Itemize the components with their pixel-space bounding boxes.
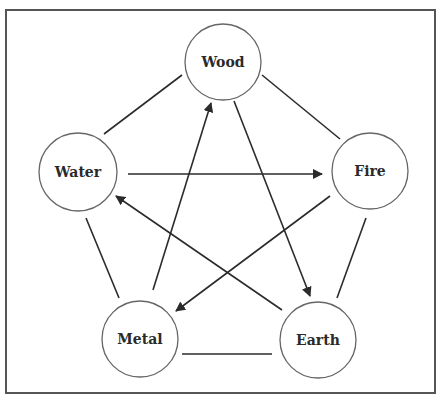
edge-water-wood xyxy=(104,75,182,134)
node-wood: Wood xyxy=(185,24,261,100)
node-label: Metal xyxy=(117,331,162,347)
node-metal: Metal xyxy=(102,301,178,377)
arrow-wood-to-earth xyxy=(234,101,310,296)
edge-wood-fire xyxy=(262,75,340,139)
arrow-metal-to-wood xyxy=(153,103,211,290)
node-label: Water xyxy=(54,164,102,180)
edge-water-metal xyxy=(86,218,119,298)
node-fire: Fire xyxy=(332,133,408,209)
controlling-cycle-arrows xyxy=(116,101,330,311)
five-elements-diagram: WoodWaterFireMetalEarth xyxy=(0,0,447,401)
node-label: Wood xyxy=(200,54,244,70)
edge-fire-earth xyxy=(337,218,366,298)
node-earth: Earth xyxy=(280,302,356,378)
element-nodes: WoodWaterFireMetalEarth xyxy=(39,24,408,378)
node-label: Fire xyxy=(354,163,386,179)
node-water: Water xyxy=(39,133,117,211)
node-label: Earth xyxy=(296,332,340,348)
